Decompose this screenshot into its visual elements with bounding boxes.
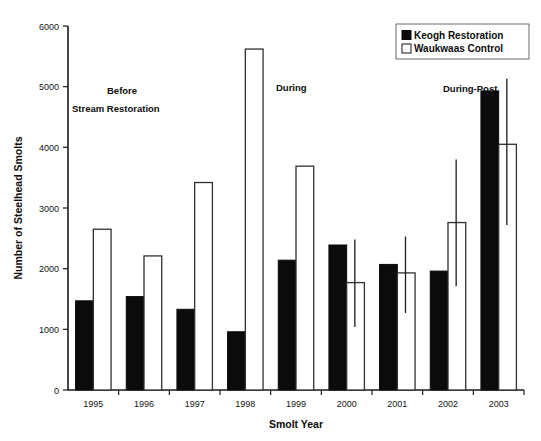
bar-2003-keogh-restoration	[481, 91, 499, 390]
bar-1996-keogh-restoration	[126, 297, 144, 390]
bar-2000-waukwaas-control	[347, 283, 365, 390]
bar-1998-waukwaas-control	[245, 49, 263, 390]
y-tick-label-4000: 4000	[39, 143, 59, 153]
annotation-before-line1: Before	[107, 85, 137, 96]
annotation-during-post: During-Post	[443, 83, 498, 94]
legend-label-waukwaas-control: Waukwaas Control	[414, 43, 503, 54]
y-axis-title: Number of Steelhead Smolts	[12, 136, 24, 279]
bar-2002-waukwaas-control	[448, 223, 466, 390]
x-tick-label-2000: 2000	[337, 399, 357, 409]
chart-container: 0100020003000400050006000 19951996199719…	[0, 0, 541, 441]
y-tick-label-2000: 2000	[39, 264, 59, 274]
bar-1995-waukwaas-control	[93, 229, 111, 390]
legend-label-keogh-restoration: Keogh Restoration	[414, 30, 503, 41]
y-tick-label-3000: 3000	[39, 204, 59, 214]
bar-2003-waukwaas-control	[499, 144, 517, 390]
x-tick-label-1995: 1995	[83, 399, 103, 409]
bar-2002-keogh-restoration	[430, 271, 448, 390]
bar-1996-waukwaas-control	[144, 256, 162, 390]
x-axis-title: Smolt Year	[269, 418, 323, 430]
legend-swatch-keogh-restoration	[402, 31, 411, 40]
y-tick-group: 0100020003000400050006000	[39, 22, 68, 396]
x-tick-label-2003: 2003	[489, 399, 509, 409]
bar-1998-keogh-restoration	[228, 332, 246, 390]
bar-1997-waukwaas-control	[195, 183, 213, 390]
bar-1999-waukwaas-control	[296, 166, 314, 390]
y-tick-label-0: 0	[54, 386, 59, 396]
y-tick-label-5000: 5000	[39, 82, 59, 92]
annotation-during: During	[276, 82, 307, 93]
y-tick-label-1000: 1000	[39, 325, 59, 335]
legend-swatch-waukwaas-control	[402, 44, 411, 53]
steelhead-smolts-bar-chart: 0100020003000400050006000 19951996199719…	[0, 0, 541, 441]
chart-legend: Keogh Restoration Waukwaas Control	[396, 24, 529, 59]
annotations-group: Before Stream Restoration During During-…	[72, 82, 498, 114]
bar-1997-keogh-restoration	[177, 309, 195, 390]
x-tick-label-2002: 2002	[438, 399, 458, 409]
bar-1999-keogh-restoration	[278, 260, 296, 390]
annotation-before-line2: Stream Restoration	[72, 103, 160, 114]
x-tick-label-1996: 1996	[134, 399, 154, 409]
bar-2001-waukwaas-control	[397, 273, 415, 390]
bar-1995-keogh-restoration	[76, 301, 94, 390]
x-tick-label-1998: 1998	[235, 399, 255, 409]
x-tick-group: 199519961997199819992000200120022003	[83, 390, 524, 409]
bar-2000-keogh-restoration	[329, 245, 347, 390]
x-tick-label-2001: 2001	[387, 399, 407, 409]
x-tick-label-1997: 1997	[185, 399, 205, 409]
bars-group	[76, 49, 517, 390]
bar-2001-keogh-restoration	[380, 264, 398, 390]
y-tick-label-6000: 6000	[39, 22, 59, 32]
x-tick-label-1999: 1999	[286, 399, 306, 409]
